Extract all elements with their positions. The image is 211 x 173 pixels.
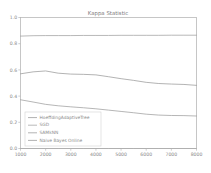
x-tick-label: 7000 bbox=[166, 152, 178, 157]
x-tick-label: 3000 bbox=[65, 152, 77, 157]
chart-title: Kappa Statistic bbox=[88, 10, 128, 17]
legend-label-1: SGD bbox=[40, 122, 50, 127]
chart-legend: HoeffdingAdaptiveTreeSGDSAMkNNNaive Baye… bbox=[25, 112, 101, 146]
chart-figure: Kappa Statistic 0.00.20.40.60.81.0 10002… bbox=[0, 0, 211, 173]
y-tick-label: 0.6 bbox=[10, 68, 17, 73]
x-tick-label: 1000 bbox=[15, 152, 27, 157]
y-tick-label: 1.0 bbox=[10, 15, 17, 20]
y-tick-label: 0.8 bbox=[10, 41, 17, 46]
legend-label-2: SAMkNN bbox=[40, 130, 59, 135]
x-tick-label: 8000 bbox=[191, 152, 203, 157]
y-tick-label: 0.2 bbox=[10, 120, 17, 125]
legend-label-0: HoeffdingAdaptiveTree bbox=[40, 115, 90, 120]
y-tick-label: 0.4 bbox=[10, 94, 17, 99]
x-tick-label: 4000 bbox=[90, 152, 102, 157]
x-tick-label: 5000 bbox=[115, 152, 127, 157]
y-tick-label: 0.0 bbox=[10, 146, 17, 151]
x-tick-label: 6000 bbox=[140, 152, 152, 157]
chart-background bbox=[0, 0, 211, 173]
legend-label-3: Naive Bayes Online bbox=[40, 138, 83, 143]
x-tick-label: 2000 bbox=[40, 152, 52, 157]
kappa-statistic-line-chart: Kappa Statistic 0.00.20.40.60.81.0 10002… bbox=[0, 0, 211, 173]
